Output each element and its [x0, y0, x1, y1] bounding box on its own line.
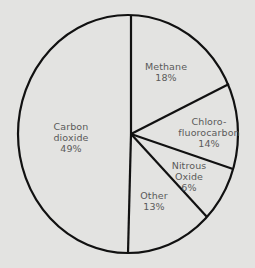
label-percent: 14%	[178, 138, 239, 149]
label-name-line1: Methane	[145, 61, 187, 72]
label-name-line2: dioxide	[53, 132, 88, 143]
label-percent: 6%	[172, 182, 207, 193]
label-percent: 13%	[140, 201, 167, 212]
label-name-line1: Carbon	[53, 121, 88, 132]
label-name-line1: Other	[140, 190, 167, 201]
label-name-line2: Oxide	[172, 171, 207, 182]
slice-label-nitrous-oxide: Nitrous Oxide 6%	[172, 160, 207, 193]
label-name-line1: Nitrous	[172, 160, 207, 171]
slice-label-methane: Methane 18%	[145, 61, 187, 83]
label-name-line1: Chloro-	[178, 116, 239, 127]
slice-label-carbon-dioxide: Carbon dioxide 49%	[53, 121, 88, 154]
label-percent: 18%	[145, 72, 187, 83]
slice-label-other: Other 13%	[140, 190, 167, 212]
slice-label-chlorofluorocarbon: Chloro- fluorocarbon 14%	[178, 116, 239, 149]
label-name-line2: fluorocarbon	[178, 127, 239, 138]
label-percent: 49%	[53, 143, 88, 154]
